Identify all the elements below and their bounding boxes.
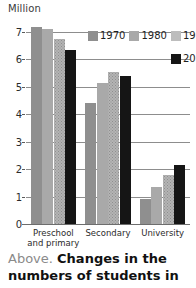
y-axis-tick-mark bbox=[22, 32, 25, 33]
bar-1990-0 bbox=[54, 39, 65, 224]
legend-swatch-1970 bbox=[88, 31, 98, 41]
legend-item-1980: 1980 bbox=[129, 30, 166, 41]
y-axis-tick-mark bbox=[22, 114, 25, 115]
y-axis-tick-label: 2 bbox=[0, 164, 22, 175]
y-axis-tick-label: 0 bbox=[0, 219, 22, 230]
bar-1970-2 bbox=[140, 199, 151, 224]
legend-label-1990: 1990 bbox=[183, 30, 196, 41]
bar-2000-1 bbox=[120, 76, 131, 224]
y-axis-tick-label: 4 bbox=[0, 109, 22, 120]
y-axis-tick-label: 7 bbox=[0, 27, 22, 38]
legend-swatch-1980 bbox=[129, 31, 139, 41]
x-axis-label-line: Secondary bbox=[81, 228, 136, 238]
bar-2000-2 bbox=[174, 165, 185, 224]
figure-caption: Above. Changes in the numbers of student… bbox=[0, 250, 196, 288]
y-axis-tick-mark bbox=[22, 59, 25, 60]
legend-item-2000: 2000 bbox=[171, 53, 196, 64]
legend-label-1970: 1970 bbox=[100, 30, 125, 41]
y-axis-tick-label: 3 bbox=[0, 136, 22, 147]
y-axis-tick-label: 5 bbox=[0, 81, 22, 92]
x-axis-label-line: University bbox=[135, 228, 190, 238]
bar-1970-0 bbox=[31, 27, 42, 224]
x-axis-label-line: Preschool bbox=[26, 228, 81, 238]
legend-row-primary: 1970 1980 1990 bbox=[88, 30, 196, 41]
y-axis-unit-label: Million bbox=[8, 3, 41, 14]
bar-1990-1 bbox=[108, 72, 119, 224]
y-axis-tick-mark bbox=[22, 142, 25, 143]
y-axis-tick-label: 6 bbox=[0, 54, 22, 65]
y-axis-tick-mark bbox=[22, 87, 25, 88]
legend-label-2000: 2000 bbox=[183, 53, 196, 64]
legend-item-1990: 1990 bbox=[171, 30, 196, 41]
x-axis-line bbox=[22, 224, 190, 225]
caption-lead: Above. bbox=[8, 251, 53, 266]
y-axis-tick-label: 1 bbox=[0, 191, 22, 202]
bar-1980-2 bbox=[151, 187, 162, 224]
chart-legend: 1970 1980 1990 2000 bbox=[88, 30, 196, 64]
bar-1990-2 bbox=[163, 175, 174, 224]
y-axis-tick-mark bbox=[22, 197, 25, 198]
bar-1970-1 bbox=[85, 103, 96, 224]
bar-2000-0 bbox=[65, 50, 76, 224]
x-axis-label-2: University bbox=[135, 228, 190, 238]
x-axis-label-line: and primary bbox=[26, 238, 81, 248]
legend-item-1970: 1970 bbox=[88, 30, 125, 41]
legend-swatch-2000 bbox=[171, 54, 181, 64]
bar-1980-1 bbox=[97, 83, 108, 224]
bar-chart-figure: Million 01234567 1970 1980 1990 2000 bbox=[0, 0, 196, 246]
legend-swatch-1990 bbox=[171, 31, 181, 41]
x-axis-label-0: Preschooland primary bbox=[26, 228, 81, 248]
y-axis-tick-mark bbox=[22, 169, 25, 170]
bar-group bbox=[31, 32, 77, 224]
bar-1980-0 bbox=[42, 29, 53, 224]
legend-label-1980: 1980 bbox=[141, 30, 166, 41]
legend-row-secondary: 2000 bbox=[88, 53, 196, 64]
x-axis-label-1: Secondary bbox=[81, 228, 136, 238]
